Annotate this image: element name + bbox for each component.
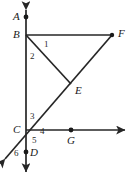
- angle-label-3: 3: [30, 112, 35, 121]
- angle-label-4: 4: [40, 127, 45, 136]
- point-label-C: C: [13, 124, 20, 135]
- geometry-diagram: A B C D E F G 1 2 3 4 5 6: [0, 0, 133, 181]
- point-dot-F: [110, 33, 114, 37]
- point-dot-D: [24, 150, 29, 155]
- point-label-G: G: [67, 135, 75, 146]
- point-label-A: A: [13, 11, 20, 22]
- point-label-E: E: [75, 85, 82, 96]
- line-diagonal-CEF: [5, 35, 112, 159]
- point-dot-A: [24, 15, 29, 20]
- angle-label-1: 1: [44, 40, 49, 49]
- point-label-F: F: [118, 28, 125, 39]
- point-label-D: D: [30, 147, 38, 158]
- point-dot-G: [69, 128, 74, 133]
- angle-label-5: 5: [32, 136, 37, 145]
- point-label-B: B: [13, 29, 20, 40]
- angle-label-2: 2: [30, 52, 35, 61]
- angle-label-6: 6: [14, 149, 19, 158]
